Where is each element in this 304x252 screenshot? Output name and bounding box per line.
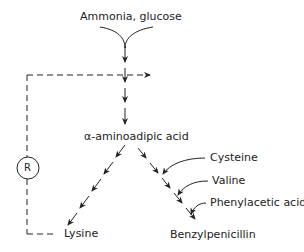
inputs-label: Ammonia, glucose	[80, 11, 182, 22]
intermediate-label: α-aminoadipic acid	[84, 131, 189, 142]
pathway-diagram	[0, 0, 304, 252]
regulator-label: R	[24, 163, 31, 173]
benzylpenicillin-label: Benzylpenicillin	[170, 229, 256, 240]
precursor-arrows	[163, 158, 208, 214]
valine-label: Valine	[212, 175, 245, 186]
phenylacetic-acid-label: Phenylacetic acid	[210, 197, 304, 208]
input-converge-arrows	[100, 27, 153, 48]
lysine-branch-arrows	[68, 145, 125, 225]
feedback-loop	[27, 75, 150, 234]
penicillin-branch-arrows	[138, 148, 195, 219]
lysine-label: Lysine	[64, 228, 98, 239]
cysteine-label: Cysteine	[210, 152, 258, 163]
